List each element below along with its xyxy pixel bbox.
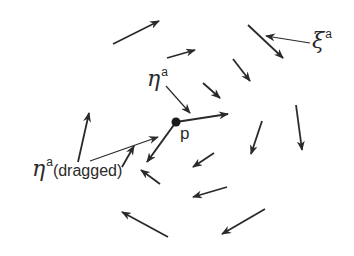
xi-superscript: a bbox=[325, 27, 332, 41]
eta-superscript: a bbox=[161, 65, 168, 79]
field-arrow bbox=[122, 212, 168, 237]
field-arrow bbox=[296, 105, 302, 150]
eta-dragged-label: ηa(dragged) bbox=[32, 158, 122, 180]
label-leaders bbox=[90, 36, 310, 161]
eta-dragged-suffix: (dragged) bbox=[53, 162, 122, 179]
field-arrow bbox=[141, 170, 160, 184]
eta-label: ηa bbox=[147, 68, 168, 90]
field-arrow bbox=[193, 153, 214, 167]
eta-dragged-vector-arrow bbox=[147, 122, 176, 162]
eta-vector-arrow bbox=[176, 114, 228, 122]
xi-leader-arrow bbox=[266, 36, 310, 43]
field-arrow bbox=[203, 83, 220, 98]
field-arrow bbox=[248, 25, 283, 58]
eta-dragged-superscript: a bbox=[46, 155, 53, 169]
xi-symbol: ξ bbox=[312, 28, 324, 53]
field-arrow bbox=[193, 187, 227, 197]
field-arrow bbox=[251, 121, 262, 154]
field-arrows bbox=[78, 21, 302, 237]
point-p-label: p bbox=[180, 124, 189, 144]
xi-label: ξa bbox=[312, 30, 332, 52]
field-arrow bbox=[233, 59, 250, 81]
field-arrow bbox=[113, 21, 159, 44]
eta-dragged-symbol: η bbox=[32, 156, 45, 181]
vector-field-diagram bbox=[0, 0, 354, 256]
field-arrow bbox=[78, 113, 89, 162]
field-arrow bbox=[167, 50, 195, 58]
eta-leader-arrow bbox=[166, 86, 190, 113]
eta-symbol: η bbox=[147, 66, 160, 91]
field-arrow bbox=[222, 209, 265, 234]
